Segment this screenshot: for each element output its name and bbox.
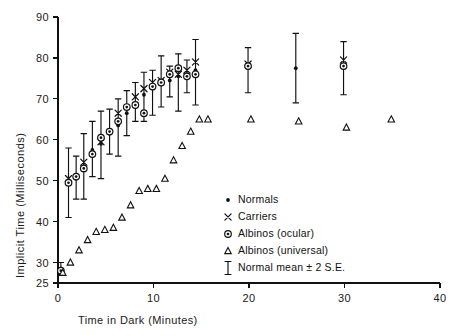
marker-albinos-universal — [205, 116, 212, 122]
marker-albinos-universal — [136, 187, 143, 193]
y-tick-label: 25 — [36, 277, 49, 289]
marker-albinos-ocular-center — [91, 153, 94, 156]
y-tick-label: 70 — [36, 93, 49, 105]
x-tick-label: 20 — [242, 292, 255, 304]
y-tick-label: 30 — [36, 257, 49, 269]
marker-albinos-universal — [196, 116, 203, 122]
marker-albinos-universal — [76, 247, 83, 253]
marker-albinos-universal — [388, 116, 395, 122]
marker-albinos-universal — [84, 237, 91, 243]
marker-albinos-ocular-center — [100, 136, 103, 139]
legend-label: Carriers — [238, 210, 277, 222]
marker-albinos-ocular-center — [82, 167, 85, 170]
marker-normals — [125, 111, 129, 115]
marker-albinos-universal — [93, 228, 100, 234]
marker-albinos-universal — [170, 157, 177, 163]
marker-albinos-universal — [343, 124, 350, 130]
marker-albinos-universal — [67, 259, 74, 265]
x-axis-title: Time in Dark (Minutes) — [78, 314, 198, 326]
marker-albinos-universal — [119, 214, 126, 220]
x-tick-label: 0 — [55, 292, 62, 304]
marker-albinos-universal — [102, 226, 109, 232]
error-bar — [175, 54, 181, 111]
marker-albinos-ocular-center — [160, 81, 163, 84]
marker-normals — [226, 198, 230, 202]
marker-albinos-universal — [127, 202, 134, 208]
chart-legend-markers — [225, 198, 232, 274]
marker-albinos-ocular-center — [151, 85, 154, 88]
marker-normals — [168, 79, 172, 83]
marker-albinos-ocular-center — [108, 130, 111, 133]
legend-label: Albinos (universal) — [238, 244, 328, 256]
error-bar — [115, 99, 121, 156]
marker-albinos-ocular-center — [143, 112, 146, 115]
y-tick-label: 90 — [36, 11, 49, 23]
marker-albinos-universal — [162, 175, 169, 181]
series-dot — [59, 66, 345, 270]
y-tick-label: 50 — [36, 175, 49, 187]
marker-albinos-ocular-center — [177, 67, 180, 70]
marker-albinos-ocular-center — [117, 120, 120, 123]
marker-normals — [294, 66, 298, 70]
y-tick-label: 60 — [36, 134, 49, 146]
marker-albinos-universal — [145, 185, 152, 191]
marker-albinos-universal — [225, 248, 232, 254]
marker-albinos-ocular-center — [168, 73, 171, 76]
error-bar — [149, 70, 155, 115]
y-axis-title: Implicit Time (Milliseconds) — [14, 133, 26, 278]
marker-albinos-ocular-center — [125, 106, 128, 109]
chart-plot-area — [58, 33, 395, 275]
legend-label: Normals — [238, 193, 279, 205]
x-tick-label: 40 — [433, 292, 446, 304]
marker-albinos-ocular-center — [194, 73, 197, 76]
marker-albinos-universal — [179, 142, 186, 148]
implicit-time-scatter-chart: 2530405060708090010203040 — [0, 0, 460, 335]
marker-albinos-ocular-center — [247, 65, 250, 68]
marker-albinos-ocular-center — [227, 233, 230, 236]
marker-albinos-universal — [153, 185, 160, 191]
marker-albinos-ocular-center — [67, 181, 70, 184]
marker-albinos-ocular-center — [186, 75, 189, 78]
marker-albinos-ocular-center — [342, 65, 345, 68]
marker-albinos-universal — [187, 128, 194, 134]
marker-albinos-universal — [110, 224, 117, 230]
y-tick-label: 40 — [36, 216, 49, 228]
x-tick-label: 30 — [338, 292, 351, 304]
marker-carriers — [225, 214, 231, 220]
marker-normals — [142, 93, 146, 97]
x-tick-label: 10 — [147, 292, 160, 304]
marker-albinos-ocular-center — [134, 104, 137, 107]
legend-label: Albinos (ocular) — [238, 227, 314, 239]
marker-albinos-universal — [248, 116, 255, 122]
marker-albinos-universal — [295, 118, 302, 124]
marker-albinos-ocular-center — [75, 175, 78, 178]
y-tick-label: 80 — [36, 52, 49, 64]
error-bar — [245, 48, 251, 93]
legend-label: Normal mean ± 2 S.E. — [238, 261, 345, 273]
legend-marker-errorbar — [225, 262, 232, 275]
